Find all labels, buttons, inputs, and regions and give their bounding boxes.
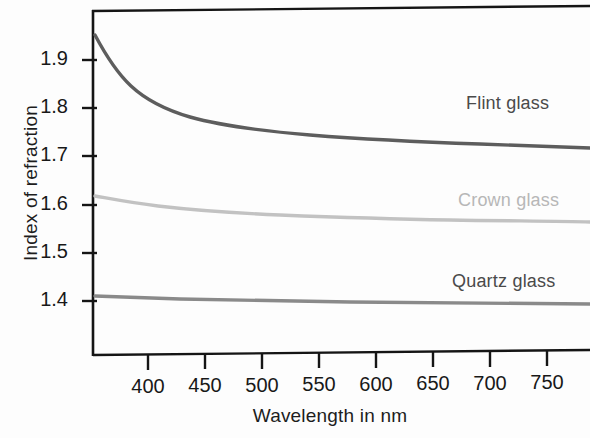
x-tick-label-700: 700 (460, 372, 520, 395)
x-axis-title: Wavelength in nm (200, 405, 460, 427)
x-tick-label-500: 500 (232, 374, 292, 397)
y-axis-title: Index of refraction (20, 68, 42, 298)
y-tick-label-1-9: 1.9 (6, 47, 68, 70)
series-curve-quartz (95, 296, 590, 304)
series-label-flint: Flint glass (466, 93, 549, 114)
series-curve-flint (95, 35, 590, 148)
x-tick-label-750: 750 (517, 371, 577, 394)
series-label-quartz: Quartz glass (452, 271, 555, 292)
x-tick-label-650: 650 (403, 372, 463, 395)
x-tick-label-600: 600 (346, 373, 406, 396)
x-tick-label-550: 550 (289, 373, 349, 396)
x-tick-label-400: 400 (118, 375, 178, 398)
y-axis-ticks (82, 60, 97, 301)
refractive-index-chart: 1.9 1.8 1.7 1.6 1.5 1.4 400 450 500 550 … (0, 0, 590, 438)
x-tick-label-450: 450 (175, 374, 235, 397)
series-label-crown: Crown glass (458, 190, 559, 211)
